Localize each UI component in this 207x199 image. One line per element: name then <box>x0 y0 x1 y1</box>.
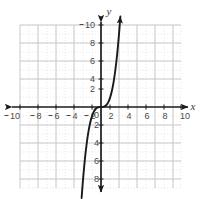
y-tick-label-6: 6 <box>90 56 95 66</box>
x-tick-label-neg8: 8 <box>31 111 42 121</box>
y-tick-label-4: 4 <box>90 74 95 84</box>
x-tick-label-neg10: 10 <box>5 111 21 121</box>
y-axis-label: y <box>106 5 112 17</box>
x-tick-label-10: 10 <box>180 111 190 121</box>
y-axis-tick-labels: 10 8 6 4 2 2 4 6 8 <box>80 20 100 184</box>
x-tick-label-neg10-text: 10 <box>10 111 20 121</box>
y-tick-label-neg4: 4 <box>94 138 99 148</box>
y-tick-label-10: 10 <box>80 20 96 30</box>
x-axis-label: x <box>190 100 196 112</box>
x-tick-label-neg8-text: 8 <box>36 111 41 121</box>
y-tick-label-neg2: 2 <box>94 120 99 130</box>
cubic-function-graph: 10 8 6 4 2 2 4 6 8 10 <box>0 0 207 199</box>
y-tick-label-8: 8 <box>90 38 95 48</box>
y-tick-label-2: 2 <box>90 84 95 94</box>
y-tick-label-10-text: 10 <box>85 20 95 30</box>
x-tick-label-8: 8 <box>162 111 167 121</box>
x-tick-label-4: 4 <box>126 111 131 121</box>
x-tick-label-neg6-text: 6 <box>54 111 59 121</box>
x-tick-label-2: 2 <box>108 111 113 121</box>
y-tick-label-neg8: 8 <box>94 174 99 184</box>
x-tick-label-neg4: 4 <box>67 111 78 121</box>
x-tick-label-neg4-text: 4 <box>72 111 77 121</box>
x-tick-label-6: 6 <box>144 111 149 121</box>
x-tick-label-neg6: 6 <box>49 111 60 121</box>
y-tick-label-neg6: 6 <box>94 156 99 166</box>
coordinate-plane: 10 8 6 4 2 2 4 6 8 10 <box>0 0 207 199</box>
